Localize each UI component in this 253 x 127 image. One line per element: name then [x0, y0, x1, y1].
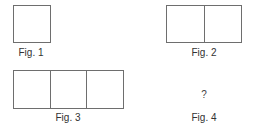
figure-1-label: Fig. 1 — [1, 47, 61, 58]
square — [14, 6, 50, 42]
square — [87, 71, 123, 108]
square — [205, 6, 242, 42]
square — [51, 71, 88, 108]
figure-2-label: Fig. 2 — [174, 47, 234, 58]
square — [14, 71, 51, 108]
figure-3-shape — [13, 70, 124, 109]
figure-4-label: Fig. 4 — [174, 112, 234, 123]
figure-3-label: Fig. 3 — [38, 112, 98, 123]
figure-4-question-mark: ? — [194, 89, 214, 100]
figure-2-shape — [166, 5, 242, 43]
square — [167, 6, 205, 42]
figure-1-shape — [13, 5, 51, 43]
